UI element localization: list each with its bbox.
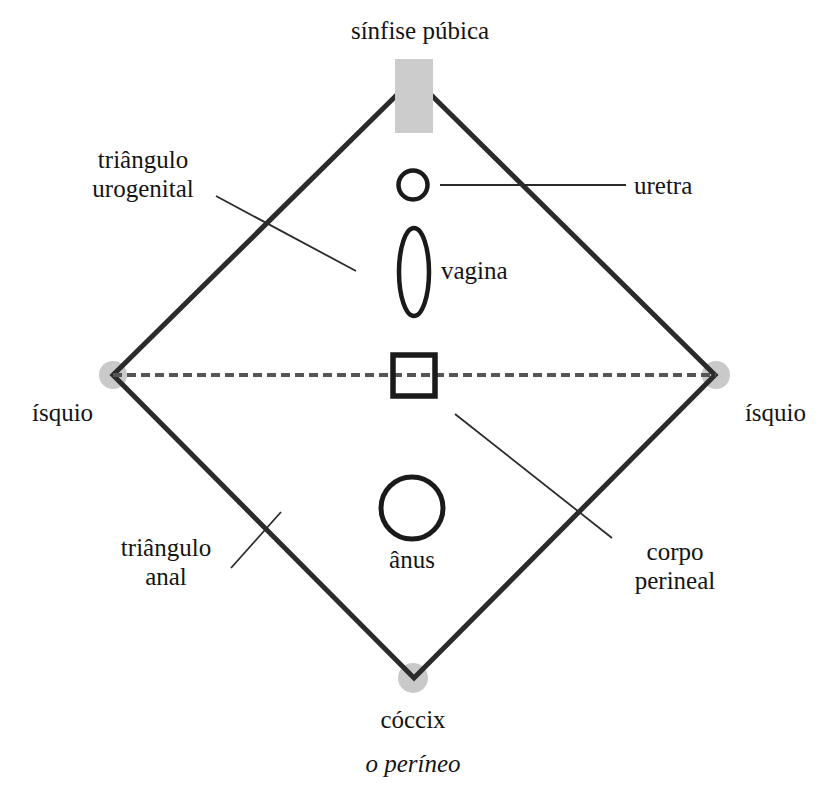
label-urogenital-triangle: triângulo urogenital <box>92 145 193 203</box>
anal-opening <box>381 477 443 539</box>
label-anal-triangle: triângulo anal <box>121 533 211 591</box>
diagram-svg <box>0 0 838 798</box>
perineal-body-leader-line <box>455 414 612 538</box>
label-anus: ânus <box>389 545 435 574</box>
vaginal-opening <box>399 228 429 316</box>
pubic-symphysis-marker <box>395 59 433 133</box>
label-ischium-left: ísquio <box>32 398 93 427</box>
label-pubic-symphysis: sínfise púbica <box>351 16 489 45</box>
urethra-opening <box>399 171 428 200</box>
label-urethra: uretra <box>634 171 692 200</box>
label-coccyx: cóccix <box>380 705 445 734</box>
perineum-diagram-canvas: sínfise púbica triângulo urogenital triâ… <box>0 0 838 798</box>
label-ischium-right: ísquio <box>745 398 806 427</box>
diagram-caption: o períneo <box>365 749 460 778</box>
label-vagina: vagina <box>441 256 508 285</box>
label-perineal-body: corpo perineal <box>635 537 716 595</box>
